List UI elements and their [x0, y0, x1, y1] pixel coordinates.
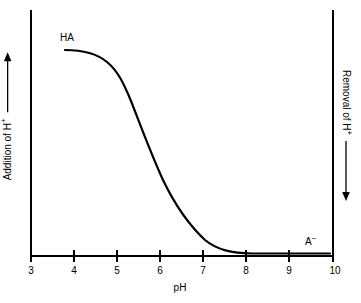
x-tick-label-3: 3	[21, 266, 41, 276]
annotation-a-minus-base: A	[305, 236, 312, 247]
up-arrow-icon	[3, 51, 13, 113]
chart-figure: 3 4 5 6 7 8 9 10 pH HA A− Addition of H+…	[0, 0, 361, 303]
annotation-a-minus: A−	[305, 237, 316, 247]
x-axis-title: pH	[174, 283, 187, 293]
left-axis-caption: Addition of H+	[3, 51, 13, 180]
left-axis-caption-superscript: +	[0, 118, 8, 123]
down-arrow-icon	[341, 140, 351, 202]
right-axis-caption: Removal of H+	[341, 70, 351, 202]
x-tick-label-5: 5	[107, 266, 127, 276]
chart-plot-area	[0, 0, 361, 303]
x-tick-label-9: 9	[279, 266, 299, 276]
titration-curve	[65, 50, 330, 254]
right-axis-caption-superscript: +	[345, 131, 354, 136]
x-tick-label-6: 6	[150, 266, 170, 276]
annotation-ha: HA	[60, 33, 74, 43]
x-tick-label-7: 7	[193, 266, 213, 276]
left-axis-caption-text: Addition of H	[2, 123, 13, 180]
right-axis-caption-text: Removal of H	[341, 70, 352, 131]
annotation-a-minus-superscript: −	[312, 234, 317, 243]
x-tick-label-10: 10	[325, 266, 345, 276]
x-tick-label-8: 8	[236, 266, 256, 276]
x-tick-label-4: 4	[64, 266, 84, 276]
